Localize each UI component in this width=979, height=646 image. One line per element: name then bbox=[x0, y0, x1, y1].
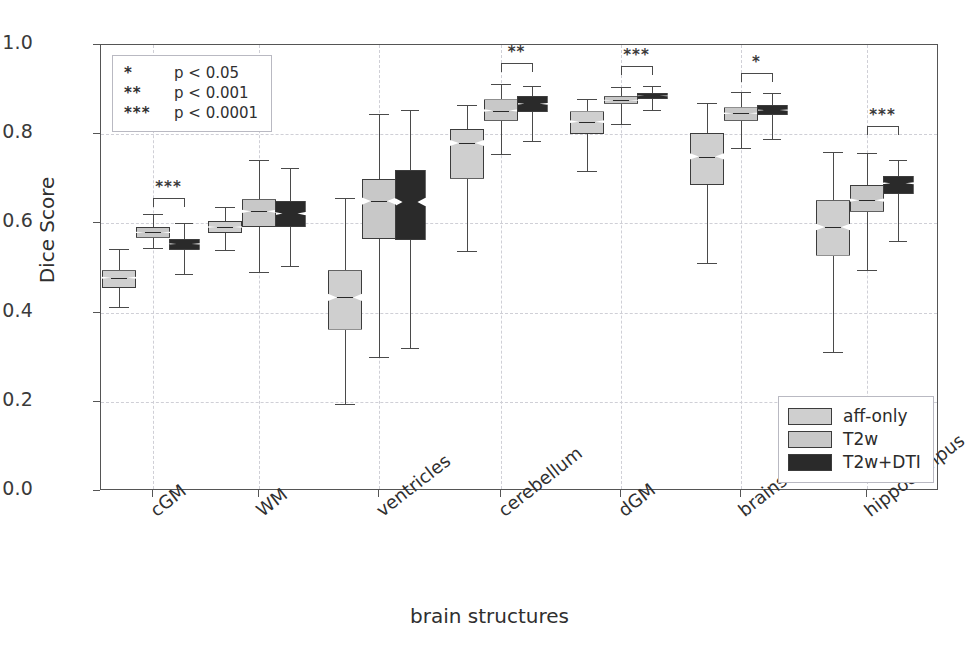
whisker-cap-upper bbox=[523, 86, 542, 87]
box-body bbox=[690, 133, 724, 185]
median-line bbox=[337, 297, 353, 298]
pvalue-text: p < 0.001 bbox=[164, 83, 258, 103]
y-tick-label: 0.0 bbox=[0, 477, 33, 499]
bracket-leg-right bbox=[652, 66, 653, 75]
whisker-cap-lower bbox=[215, 250, 235, 251]
whisker-cap-lower bbox=[889, 241, 908, 242]
whisker-upper bbox=[467, 105, 468, 129]
y-tick-mark bbox=[93, 44, 100, 45]
whisker-cap-lower bbox=[175, 274, 194, 275]
x-tick-mark bbox=[866, 490, 867, 497]
whisker-upper bbox=[898, 160, 899, 176]
pvalue-legend-table: *p < 0.05**p < 0.001***p < 0.0001 bbox=[124, 63, 258, 123]
median-line bbox=[579, 122, 595, 123]
median-line bbox=[217, 227, 233, 228]
median-line bbox=[403, 202, 418, 203]
whisker-cap-upper bbox=[857, 153, 877, 154]
y-tick-label: 0.8 bbox=[0, 120, 33, 142]
legend-label: aff-only bbox=[843, 406, 908, 426]
whisker-upper bbox=[772, 93, 773, 105]
legend-swatch-T2w+DTI bbox=[788, 454, 832, 471]
median-line bbox=[859, 200, 875, 201]
whisker-lower bbox=[225, 233, 226, 250]
whisker-cap-lower bbox=[763, 139, 782, 140]
whisker-cap-upper bbox=[249, 160, 269, 161]
box-body bbox=[102, 270, 136, 288]
whisker-cap-lower bbox=[401, 348, 420, 349]
y-tick-mark bbox=[93, 133, 100, 134]
whisker-lower bbox=[867, 212, 868, 270]
pvalue-symbol: *** bbox=[124, 103, 164, 123]
whisker-lower bbox=[184, 250, 185, 274]
whisker-cap-upper bbox=[335, 198, 355, 199]
legend-item-aff-only[interactable]: aff-only bbox=[788, 406, 921, 426]
bracket-leg-right bbox=[532, 63, 533, 72]
whisker-lower bbox=[410, 240, 411, 348]
whisker-lower bbox=[532, 112, 533, 141]
whisker-cap-upper bbox=[889, 160, 908, 161]
pvalue-legend-row: ***p < 0.0001 bbox=[124, 103, 258, 123]
whisker-cap-upper bbox=[697, 103, 717, 104]
median-line bbox=[177, 244, 192, 245]
whisker-upper bbox=[532, 86, 533, 96]
whisker-lower bbox=[707, 185, 708, 263]
whisker-cap-upper bbox=[457, 105, 477, 106]
whisker-cap-upper bbox=[369, 114, 389, 115]
bracket-leg-left bbox=[501, 63, 502, 72]
whisker-cap-upper bbox=[401, 110, 420, 111]
whisker-lower bbox=[501, 121, 502, 154]
whisker-cap-lower bbox=[369, 357, 389, 358]
x-tick-mark bbox=[500, 490, 501, 497]
boxplot-figure: Dice Score 0.00.20.40.60.81.0 **********… bbox=[0, 0, 979, 646]
y-tick-label: 0.2 bbox=[0, 388, 33, 410]
box-body bbox=[362, 179, 396, 239]
median-line bbox=[111, 278, 127, 279]
whisker-upper bbox=[707, 103, 708, 133]
whisker-lower bbox=[652, 99, 653, 110]
whisker-upper bbox=[119, 249, 120, 270]
y-tick-label: 1.0 bbox=[0, 31, 33, 53]
whisker-upper bbox=[741, 92, 742, 108]
legend-swatch-aff-only bbox=[788, 408, 832, 425]
y-tick-mark bbox=[93, 312, 100, 313]
whisker-cap-upper bbox=[823, 152, 843, 153]
whisker-cap-upper bbox=[643, 86, 662, 87]
significance-label: *** bbox=[601, 46, 672, 64]
bracket-leg-right bbox=[772, 73, 773, 82]
x-tick-mark bbox=[152, 490, 153, 497]
whisker-lower bbox=[772, 115, 773, 139]
median-line bbox=[645, 96, 660, 97]
x-tick-mark bbox=[258, 490, 259, 497]
bracket-leg-left bbox=[867, 126, 868, 135]
median-line bbox=[733, 113, 749, 114]
whisker-cap-lower bbox=[611, 124, 631, 125]
pvalue-legend-row: *p < 0.05 bbox=[124, 63, 258, 83]
whisker-lower bbox=[379, 239, 380, 357]
whisker-upper bbox=[184, 223, 185, 238]
pvalue-symbol: * bbox=[124, 63, 164, 83]
legend-label: T2w+DTI bbox=[843, 452, 921, 472]
whisker-upper bbox=[410, 110, 411, 170]
whisker-upper bbox=[501, 84, 502, 100]
bracket-leg-left bbox=[153, 198, 154, 207]
gridline-horizontal bbox=[101, 134, 937, 135]
bracket-bar bbox=[501, 63, 532, 64]
median-line bbox=[891, 183, 906, 184]
whisker-lower bbox=[741, 121, 742, 148]
whisker-cap-lower bbox=[643, 110, 662, 111]
legend-item-T2w[interactable]: T2w bbox=[788, 429, 921, 449]
pvalue-legend-row: **p < 0.001 bbox=[124, 83, 258, 103]
median-line bbox=[251, 211, 267, 212]
significance-label: * bbox=[721, 53, 792, 71]
whisker-cap-lower bbox=[491, 154, 511, 155]
whisker-upper bbox=[379, 114, 380, 179]
pvalue-legend: *p < 0.05**p < 0.001***p < 0.0001 bbox=[112, 55, 272, 132]
pvalue-text: p < 0.05 bbox=[164, 63, 258, 83]
x-tick-mark bbox=[378, 490, 379, 497]
legend-item-T2w+DTI[interactable]: T2w+DTI bbox=[788, 452, 921, 472]
legend-label: T2w bbox=[843, 429, 878, 449]
whisker-lower bbox=[833, 256, 834, 352]
bracket-bar bbox=[153, 198, 184, 199]
whisker-cap-lower bbox=[857, 270, 877, 271]
whisker-cap-lower bbox=[109, 307, 129, 308]
